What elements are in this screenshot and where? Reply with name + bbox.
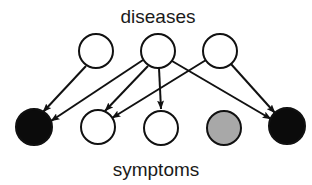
symptom-node-3[interactable] (144, 111, 178, 145)
symptom-node-2[interactable] (81, 110, 115, 144)
disease-node-1[interactable] (79, 34, 113, 68)
symptom-node-5[interactable] (269, 108, 305, 144)
figure-root: diseases symptoms (0, 0, 312, 185)
symptom-node-4[interactable] (207, 111, 241, 145)
disease-nodes-group (79, 34, 237, 68)
diseases-label: diseases (121, 6, 196, 27)
disease-node-3[interactable] (203, 34, 237, 68)
symptom-node-1[interactable] (16, 109, 52, 145)
symptoms-label: symptoms (113, 159, 200, 180)
diseases-symptoms-graph: diseases symptoms (0, 0, 312, 185)
figure-background (0, 0, 312, 185)
disease-node-2[interactable] (141, 34, 175, 68)
